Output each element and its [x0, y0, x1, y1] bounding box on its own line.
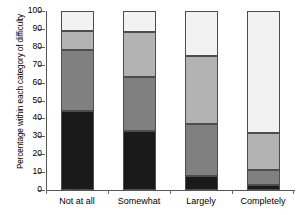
bar-segment-dark-grey [61, 50, 94, 111]
bar-segment-dark-grey [185, 124, 218, 176]
bar-segment-mid-grey [185, 56, 218, 124]
x-axis-label: Somewhat [108, 196, 170, 207]
y-tick-label: 40 [33, 112, 42, 123]
bar-segment-dark-grey [123, 77, 156, 131]
bar-segment-white [247, 11, 280, 133]
bar-segment-white [61, 11, 94, 31]
y-tick-label: 30 [33, 130, 42, 141]
bar-segment-black [185, 176, 218, 190]
bar-segment-black [123, 131, 156, 190]
bar-segment-white [123, 11, 156, 32]
x-tick-mark [108, 190, 109, 194]
x-tick-mark [293, 190, 294, 194]
y-tick-label: 50 [33, 95, 42, 106]
bar-segment-black [247, 185, 280, 190]
x-tick-mark [46, 190, 47, 194]
bar-segment-mid-grey [247, 133, 280, 171]
bar-completely [247, 11, 280, 190]
y-tick-label: 0 [37, 184, 42, 195]
bar-somewhat [123, 11, 156, 190]
x-axis-label: Largely [170, 196, 232, 207]
bar-largely [185, 11, 218, 190]
y-tick-label: 90 [33, 23, 42, 34]
x-tick-mark [232, 190, 233, 194]
x-axis-label: Completely [232, 196, 294, 207]
y-tick-label: 100 [28, 5, 42, 16]
y-axis-title: Percentage within each category of diffi… [16, 0, 25, 185]
bar-segment-mid-grey [61, 31, 94, 51]
y-tick-label: 80 [33, 41, 42, 52]
y-tick-label: 60 [33, 77, 42, 88]
x-axis-label: Not at all [46, 196, 108, 207]
bar-segment-white [185, 11, 218, 56]
plot-area: 0102030405060708090100 [46, 11, 294, 190]
bar-segment-dark-grey [247, 170, 280, 184]
y-tick-label: 70 [33, 59, 42, 70]
y-tick-label: 10 [33, 166, 42, 177]
bar-segment-black [61, 111, 94, 190]
x-tick-mark [170, 190, 171, 194]
bar-segment-mid-grey [123, 32, 156, 77]
stacked-bar-chart: Percentage within each category of diffi… [0, 0, 302, 215]
bar-not-at-all [61, 11, 94, 190]
y-tick-label: 20 [33, 148, 42, 159]
